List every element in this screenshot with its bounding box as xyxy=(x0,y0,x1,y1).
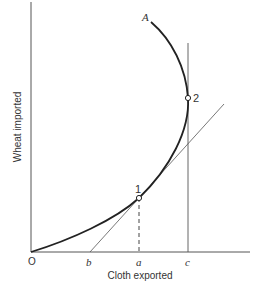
x-tick-b: b xyxy=(86,256,92,268)
y-axis-label: Wheat imported xyxy=(12,92,23,163)
x-tick-a: a xyxy=(136,256,142,268)
point-1-marker xyxy=(136,195,141,200)
curve-label-A: A xyxy=(141,11,149,23)
offer-curve-A xyxy=(31,22,188,252)
origin-label: O xyxy=(28,256,36,267)
offer-curve-diagram: 1 2 A O b a c Cloth exported Wheat impor… xyxy=(0,0,258,288)
point-1-label: 1 xyxy=(135,183,141,195)
point-2-marker xyxy=(185,95,190,100)
x-tick-c: c xyxy=(185,256,190,268)
point-2-label: 2 xyxy=(193,92,199,104)
x-axis-label: Cloth exported xyxy=(107,270,172,281)
